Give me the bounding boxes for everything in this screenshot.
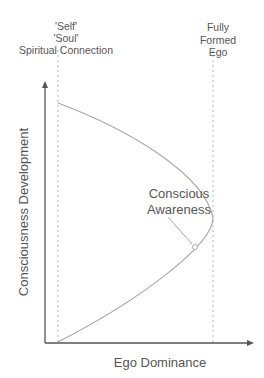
y-axis-arrow-icon bbox=[42, 81, 48, 88]
awareness-text: Awareness bbox=[134, 202, 224, 218]
y-axis-label: Consciousness Development bbox=[18, 122, 30, 302]
conscious-awareness-label: Conscious Awareness bbox=[134, 186, 224, 218]
annotation-leader-line bbox=[168, 217, 192, 244]
soul-text: 'Soul' bbox=[6, 32, 126, 44]
formed-text: Formed bbox=[196, 34, 240, 47]
x-axis-label: Ego Dominance bbox=[80, 357, 240, 369]
self-text: 'Self' bbox=[6, 20, 126, 32]
spiritual-connection-text: Spiritual Connection bbox=[6, 44, 126, 56]
conscious-text: Conscious bbox=[134, 186, 224, 202]
fully-text: Fully bbox=[196, 21, 240, 34]
x-axis-arrow-icon bbox=[247, 340, 254, 346]
awareness-marker bbox=[193, 245, 198, 250]
self-soul-label: 'Self' 'Soul' Spiritual Connection bbox=[6, 20, 126, 56]
ego-text: Ego bbox=[196, 46, 240, 59]
fully-formed-ego-label: Fully Formed Ego bbox=[196, 21, 240, 59]
development-curve bbox=[58, 103, 213, 342]
